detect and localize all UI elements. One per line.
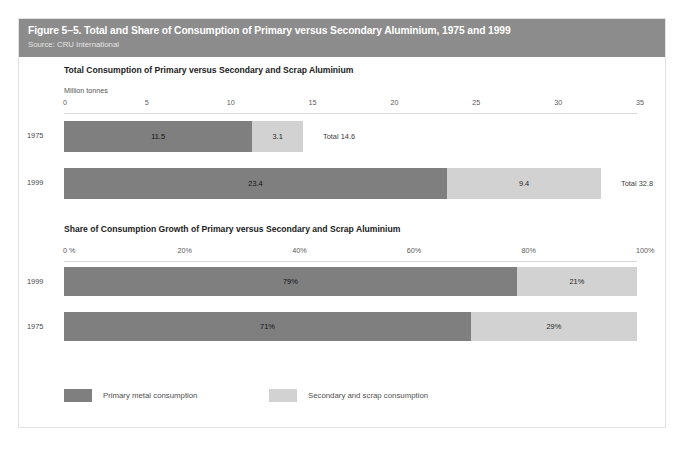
x-tick-share-2: 40% (292, 246, 306, 255)
bar-value-secondary: 9.4 (519, 179, 529, 188)
bar-value-primary: 79% (283, 277, 298, 286)
bar-rows-share: 199979%21%197571%29% (64, 261, 637, 351)
row-label-1999: 1999 (27, 178, 43, 187)
bar-value-primary: 23.4 (248, 179, 262, 188)
legend-swatch-1 (269, 389, 297, 402)
legend-item-0[interactable]: Primary metal consumption (64, 389, 197, 402)
x-tick-total-6: 30 (554, 98, 562, 107)
legend-item-1[interactable]: Secondary and scrap consumption (269, 389, 428, 402)
stacked-bar[interactable]: 71%29% (64, 312, 637, 341)
figure-container: Figure 5–5. Total and Share of Consumpti… (18, 18, 666, 428)
bar-segment-primary[interactable]: 11.5 (64, 121, 252, 152)
x-tick-share-5: 100% (636, 246, 654, 255)
plot-area-total: 05101520253035 197511.53.1Total 14.61999… (64, 98, 637, 208)
row-total-label: Total 14.6 (323, 121, 355, 152)
axis-unit-label-total: Million tonnes (64, 86, 108, 95)
bar-value-primary: 71% (260, 322, 275, 331)
bar-value-secondary: 29% (547, 322, 562, 331)
bar-segment-secondary[interactable]: 29% (471, 312, 637, 341)
x-tick-share-4: 80% (521, 246, 535, 255)
bar-segment-primary[interactable]: 23.4 (64, 168, 447, 199)
x-tick-total-3: 15 (309, 98, 317, 107)
x-tick-total-2: 10 (227, 98, 235, 107)
legend-swatch-0 (64, 389, 92, 402)
stacked-bar[interactable]: 11.53.1 (64, 121, 303, 152)
x-axis-ticks-share: 0 %20%40%60%80%100% (64, 246, 637, 260)
stacked-bar[interactable]: 79%21% (64, 267, 637, 296)
x-axis-ticks-total: 05101520253035 (64, 98, 637, 112)
bar-rows-total: 197511.53.1Total 14.6199923.49.4Total 32… (64, 113, 637, 207)
bar-segment-primary[interactable]: 79% (64, 267, 517, 296)
x-tick-total-5: 25 (472, 98, 480, 107)
bar-row: 197571%29% (64, 306, 637, 351)
plot-area-share: 0 %20%40%60%80%100% 199979%21%197571%29% (64, 246, 637, 356)
chart-title-share: Share of Consumption Growth of Primary v… (64, 224, 400, 234)
stacked-bar[interactable]: 23.49.4 (64, 168, 601, 199)
figure-header-banner: Figure 5–5. Total and Share of Consumpti… (19, 19, 665, 57)
x-tick-share-1: 20% (178, 246, 192, 255)
legend-label-1: Secondary and scrap consumption (308, 391, 428, 400)
x-tick-share-3: 60% (407, 246, 421, 255)
x-tick-total-4: 20 (390, 98, 398, 107)
x-tick-total-0: 0 (63, 98, 67, 107)
figure-title: Figure 5–5. Total and Share of Consumpti… (28, 24, 665, 37)
row-label-1999: 1999 (27, 277, 43, 286)
chart-title-total: Total Consumption of Primary versus Seco… (64, 65, 353, 75)
bar-value-secondary: 21% (569, 277, 584, 286)
figure-source: Source: CRU International (28, 39, 665, 51)
legend-label-0: Primary metal consumption (103, 391, 197, 400)
x-tick-total-1: 5 (145, 98, 149, 107)
row-label-1975: 1975 (27, 322, 43, 331)
bar-segment-secondary[interactable]: 9.4 (447, 168, 601, 199)
bar-segment-secondary[interactable]: 3.1 (252, 121, 303, 152)
row-label-1975: 1975 (27, 131, 43, 140)
bar-row: 199979%21% (64, 261, 637, 306)
bar-value-secondary: 3.1 (273, 132, 283, 141)
x-tick-total-7: 35 (636, 98, 644, 107)
bar-row: 199923.49.4Total 32.8 (64, 160, 637, 207)
bar-segment-primary[interactable]: 71% (64, 312, 471, 341)
bar-row: 197511.53.1Total 14.6 (64, 113, 637, 160)
bar-segment-secondary[interactable]: 21% (517, 267, 637, 296)
x-tick-share-0: 0 % (63, 246, 75, 255)
row-total-label: Total 32.8 (621, 168, 653, 199)
bar-value-primary: 11.5 (151, 132, 165, 141)
